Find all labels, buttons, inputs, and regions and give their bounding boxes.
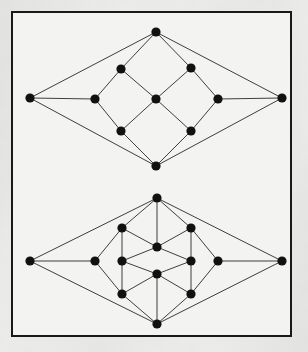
graph-vertex: center	[151, 94, 160, 103]
graph-vertex: inner bottom right	[186, 126, 195, 135]
figure-root: left apexright apextop apexbottom apexmi…	[0, 0, 308, 352]
graph-edge	[191, 68, 218, 99]
graph-vertex: right apex	[277, 93, 286, 102]
graph-vertex: left apex	[25, 256, 34, 265]
graph-edge	[95, 99, 121, 131]
graph-vertex: middle left	[90, 256, 99, 265]
graph-edge	[30, 198, 157, 261]
graph-vertex: upper center	[152, 242, 161, 251]
lower-graph-edges	[30, 198, 282, 324]
graph-edge	[121, 69, 156, 99]
graph-edge	[121, 131, 156, 166]
graph-edge	[156, 98, 282, 166]
graph-edge	[156, 99, 191, 131]
graph-vertex: top apex	[151, 27, 160, 36]
graph-edge	[30, 98, 156, 166]
graph-vertex: middle right	[213, 94, 222, 103]
graph-vertex: right apex	[277, 256, 286, 265]
graph-vertex: outer ring bottom left	[117, 289, 126, 298]
graph-edge	[122, 247, 157, 261]
graph-edge	[157, 228, 191, 247]
graph-edge	[30, 98, 95, 99]
edges-layer	[30, 32, 282, 324]
graph-vertex: bottom apex	[151, 161, 160, 170]
graph-edge	[191, 261, 218, 294]
graph-edge	[95, 228, 122, 261]
graph-edge	[156, 32, 282, 98]
graph-edge	[157, 261, 191, 274]
graph-vertex: middle left	[90, 94, 99, 103]
graph-edge	[157, 198, 282, 261]
graph-edge	[95, 261, 122, 294]
graph-edge	[122, 228, 157, 247]
graph-edge	[156, 32, 191, 68]
graph-edge	[30, 32, 156, 98]
graph-vertex: middle right	[213, 256, 222, 265]
vertices-layer: left apexright apextop apexbottom apexmi…	[25, 27, 286, 328]
graph-canvas: left apexright apextop apexbottom apexmi…	[0, 0, 308, 352]
graph-edge	[191, 99, 218, 131]
graph-edge	[191, 228, 218, 261]
graph-edge	[121, 99, 156, 131]
graph-vertex: left apex	[25, 93, 34, 102]
graph-edge	[122, 274, 157, 294]
graph-edge	[122, 261, 157, 274]
graph-edge	[121, 32, 156, 69]
graph-vertex: inner left	[117, 256, 126, 265]
graph-vertex: inner top right	[186, 63, 195, 72]
graph-vertex: inner right	[186, 256, 195, 265]
graph-vertex: bottom apex	[152, 319, 161, 328]
graph-vertex: lower center	[152, 269, 161, 278]
graph-edge	[30, 261, 157, 324]
graph-vertex: inner bottom left	[116, 126, 125, 135]
graph-edge	[218, 98, 282, 99]
graph-vertex: outer ring top left	[117, 223, 126, 232]
graph-vertex: outer ring top right	[186, 223, 195, 232]
graph-edge	[95, 69, 121, 99]
graph-edge	[157, 274, 191, 294]
graph-vertex: top apex	[152, 193, 161, 202]
graph-edge	[157, 261, 282, 324]
graph-vertex: inner top left	[116, 64, 125, 73]
graph-edge	[157, 247, 191, 261]
graph-vertex: outer ring bottom right	[186, 289, 195, 298]
graph-edge	[156, 68, 191, 99]
graph-edge	[156, 131, 191, 166]
